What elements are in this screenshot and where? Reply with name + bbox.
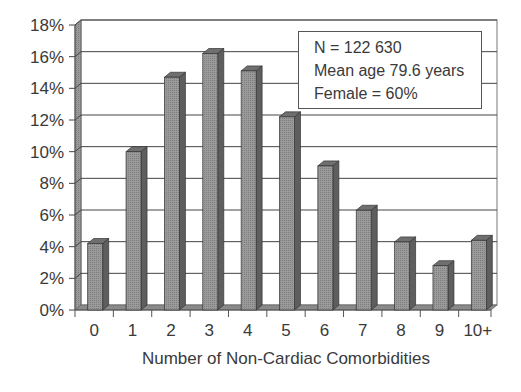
bar-9 — [433, 261, 454, 310]
y-tick-label: 10% — [30, 143, 64, 162]
y-tick-label: 18% — [30, 16, 64, 35]
x-tick-label: 7 — [358, 321, 367, 340]
x-tick-label: 0 — [89, 321, 98, 340]
y-tick-label: 14% — [30, 79, 64, 98]
x-axis: 012345678910+ — [75, 310, 492, 340]
annotation-mean-age: Mean age 79.6 years — [314, 59, 481, 82]
bar-5 — [280, 112, 301, 310]
x-tick-label: 9 — [435, 321, 444, 340]
y-tick-label: 2% — [39, 269, 64, 288]
y-tick-label: 8% — [39, 174, 64, 193]
x-tick-label: 2 — [166, 321, 175, 340]
bar-2 — [164, 72, 185, 310]
y-tick-label: 0% — [39, 301, 64, 320]
x-axis-title: Number of Non-Cardiac Comorbidities — [142, 349, 430, 368]
y-tick-label: 6% — [39, 206, 64, 225]
x-tick-label: 3 — [205, 321, 214, 340]
y-tick-label: 12% — [30, 111, 64, 130]
annotation-female: Female = 60% — [314, 82, 481, 105]
y-tick-label: 16% — [30, 48, 64, 67]
annotation-box: N = 122 630 Mean age 79.6 years Female =… — [298, 31, 482, 109]
x-tick-label: 4 — [243, 321, 252, 340]
bar-3 — [203, 49, 224, 311]
bar-1 — [126, 147, 147, 310]
bar-0 — [88, 239, 109, 311]
x-tick-label: 10+ — [463, 321, 492, 340]
bar-4 — [241, 66, 262, 310]
x-tick-label: 1 — [128, 321, 137, 340]
bar-7 — [356, 205, 377, 310]
y-axis: 0%2%4%6%8%10%12%14%16%18% — [30, 16, 75, 320]
annotation-n: N = 122 630 — [314, 36, 481, 59]
x-tick-label: 6 — [320, 321, 329, 340]
bar-10+ — [471, 235, 492, 310]
bar-8 — [395, 237, 416, 310]
y-tick-label: 4% — [39, 238, 64, 257]
bar-6 — [318, 161, 339, 310]
x-tick-label: 5 — [281, 321, 290, 340]
x-tick-label: 8 — [396, 321, 405, 340]
